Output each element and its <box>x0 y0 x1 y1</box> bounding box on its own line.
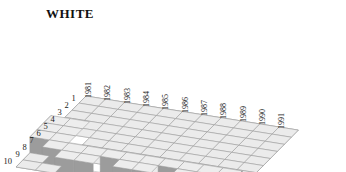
column-label-1988: 1988 <box>219 103 228 119</box>
column-label-1983: 1983 <box>123 88 132 104</box>
column-label-1981: 1981 <box>84 82 93 98</box>
row-label-7: 7 <box>30 135 34 145</box>
row-label-8: 8 <box>23 142 27 152</box>
column-label-1984: 1984 <box>142 91 151 107</box>
column-label-1991: 1991 <box>277 113 286 129</box>
column-label-1986: 1986 <box>181 97 190 113</box>
row-label-5: 5 <box>44 121 48 131</box>
row-label-10: 10 <box>4 156 13 166</box>
row-label-4: 4 <box>51 114 55 124</box>
isometric-block-chart: WHITE 1981198219831984198519861987198819… <box>0 0 346 172</box>
column-label-1985: 1985 <box>161 94 170 110</box>
column-label-1989: 1989 <box>239 106 248 122</box>
row-label-6: 6 <box>37 128 41 138</box>
isometric-plot-surface <box>0 0 346 172</box>
column-label-1982: 1982 <box>103 85 112 101</box>
row-label-2: 2 <box>65 100 69 110</box>
column-label-1990: 1990 <box>258 109 267 125</box>
row-label-3: 3 <box>58 107 62 117</box>
row-label-1: 1 <box>72 93 76 103</box>
row-label-9: 9 <box>16 149 20 159</box>
column-label-1987: 1987 <box>200 100 209 116</box>
